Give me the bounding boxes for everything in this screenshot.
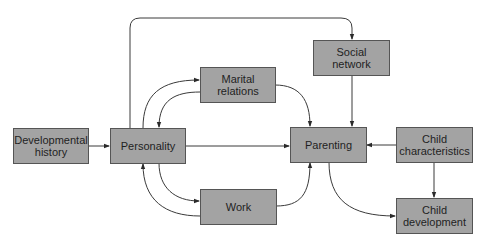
node-developmental-history: Developmental history bbox=[13, 128, 89, 164]
edge-work-to-parenting bbox=[276, 163, 310, 206]
edge-marital-to-personality bbox=[159, 92, 200, 127]
node-child-characteristics: Child characteristics bbox=[396, 127, 473, 163]
edge-personality-to-work bbox=[159, 163, 199, 201]
node-social-network: Social network bbox=[313, 40, 390, 76]
edge-parenting-to-childdev bbox=[329, 162, 395, 216]
edge-personality-to-marital bbox=[143, 80, 199, 128]
node-parenting: Parenting bbox=[290, 127, 367, 163]
node-child-development: Child development bbox=[396, 198, 473, 234]
edge-work-to-personality bbox=[143, 164, 200, 216]
edge-marital-to-parenting bbox=[275, 85, 310, 126]
node-marital-relations: Marital relations bbox=[200, 67, 276, 103]
node-work: Work bbox=[200, 189, 277, 225]
node-personality: Personality bbox=[110, 128, 186, 164]
parenting-determinants-diagram: Developmental history Personality Marita… bbox=[0, 0, 485, 246]
